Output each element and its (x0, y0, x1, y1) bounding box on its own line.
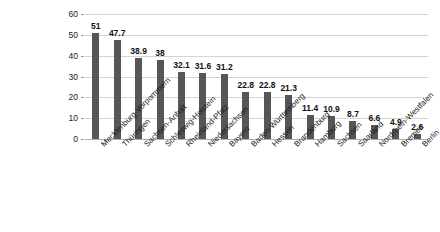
category-label: Bayern (228, 143, 234, 149)
category-label: Hamburg (314, 143, 320, 149)
category-label: Schleswig-Holstein (164, 143, 170, 149)
y-tick-label: 30 (56, 73, 78, 82)
bar-value-label: 21.3 (276, 84, 302, 93)
gridline-60 (85, 14, 428, 15)
gridline-50 (85, 35, 428, 36)
y-tick-mark-10 (81, 118, 84, 119)
category-label: Brandenburg (293, 143, 299, 149)
y-tick-label: 50 (56, 31, 78, 40)
category-label: Hessen (271, 143, 277, 149)
bar-value-label: 47.7 (104, 29, 130, 38)
category-label: Thüringen (121, 143, 127, 149)
y-tick-mark-40 (81, 56, 84, 57)
category-label: Saarland (357, 143, 363, 149)
y-tick-label: 40 (56, 52, 78, 61)
category-label: Nordrhein-Westfalen (378, 143, 384, 149)
category-label: Bremen (400, 143, 406, 149)
y-tick-label: 60 (56, 10, 78, 19)
y-tick-label: 0 (56, 135, 78, 144)
y-tick-mark-20 (81, 97, 84, 98)
y-tick-mark-30 (81, 77, 84, 78)
category-label: Baden-Württemberg (250, 143, 256, 149)
category-label: Sachsen-Anhalt (143, 143, 149, 149)
y-tick-mark-0 (81, 139, 84, 140)
bar-chart: 5147.738.93832.131.631.222.822.821.311.4… (0, 0, 440, 232)
bar-value-label: 31.2 (211, 63, 237, 72)
category-label: Sachsen (336, 143, 342, 149)
category-label: Mecklenburg-Vorpommern (100, 143, 106, 149)
bar[interactable] (92, 33, 99, 139)
category-label: Rheinland-Pfalz (185, 143, 191, 149)
y-tick-label: 10 (56, 114, 78, 123)
category-label: Niedersachsen (207, 143, 213, 149)
category-label: Berlin (421, 143, 427, 149)
bar-value-label: 38 (147, 49, 173, 58)
y-tick-mark-50 (81, 35, 84, 36)
y-tick-label: 20 (56, 93, 78, 102)
y-tick-mark-60 (81, 14, 84, 15)
